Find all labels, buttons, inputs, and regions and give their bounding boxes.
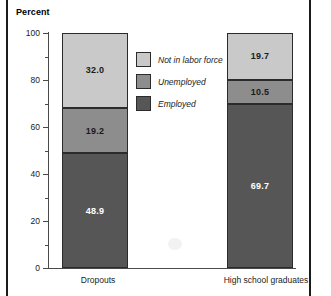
bar-segment-not-in-labor-force: 32.0 [62,33,128,108]
category-label-dropouts: Dropouts [18,276,178,285]
chart-figure: Percent 100806040200 48.919.232.069.710.… [0,0,331,296]
bar-hs-graduates: 69.710.519.7 [227,33,293,268]
legend-label: Employed [158,99,196,109]
scan-artifact [168,238,182,250]
y-tick-major [43,221,49,222]
legend-swatch [136,74,151,89]
category-label-hs-graduates: High school graduates [186,276,331,285]
bar-segment-value: 48.9 [86,206,104,216]
legend-item: Employed [136,93,223,114]
y-tick-minor [45,104,49,105]
bar-segment-employed: 69.7 [227,104,293,268]
y-tick-label: 80 [14,76,40,85]
legend-swatch [136,52,151,67]
legend-swatch [136,96,151,111]
y-tick-label-wrap: 80 [12,76,40,85]
y-tick-label-wrap: 20 [12,217,40,226]
legend-item: Unemployed [136,71,223,92]
plot-area: 100806040200 48.919.232.069.710.519.7 Dr… [0,0,331,296]
legend-label: Unemployed [158,77,206,87]
bar-segment-employed: 48.9 [62,153,128,268]
y-tick-label: 60 [14,123,40,132]
bar-segment-not-in-labor-force: 19.7 [227,33,293,79]
x-axis-line [48,268,296,269]
bar-segment-unemployed: 19.2 [62,108,128,153]
y-tick-major [43,33,49,34]
y-tick-major [43,174,49,175]
bar-segment-value: 32.0 [86,65,104,75]
y-tick-major [43,268,49,269]
y-tick-minor [45,245,49,246]
legend-item: Not in labor force [136,49,223,70]
y-tick-label-wrap: 40 [12,170,40,179]
bar-segment-value: 69.7 [251,181,269,191]
chart-legend: Not in labor forceUnemployedEmployed [136,49,223,115]
y-tick-label: 40 [14,170,40,179]
y-tick-major [43,80,49,81]
bar-segment-value: 19.2 [86,126,104,136]
y-tick-minor [45,57,49,58]
y-tick-label: 100 [14,29,40,38]
bar-segment-value: 19.7 [251,51,269,61]
y-tick-label-wrap: 0 [12,264,40,273]
bar-segment-value: 10.5 [251,87,269,97]
y-tick-label-wrap: 60 [12,123,40,132]
y-tick-label: 0 [14,264,40,273]
bar-segment-unemployed: 10.5 [227,80,293,105]
bar-dropouts: 48.919.232.0 [62,33,128,268]
y-tick-minor [45,198,49,199]
y-tick-label: 20 [14,217,40,226]
y-tick-label-wrap: 100 [12,29,40,38]
y-tick-major [43,127,49,128]
legend-label: Not in labor force [158,55,223,65]
y-tick-minor [45,151,49,152]
